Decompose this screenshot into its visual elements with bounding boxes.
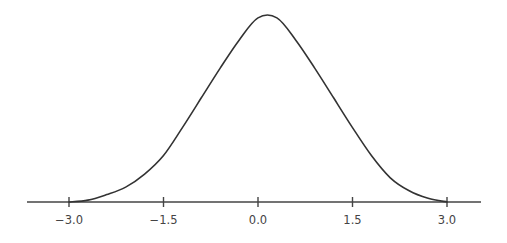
- x-axis-tick-labels: −3.0−1.50.01.53.0: [55, 213, 456, 227]
- x-axis-tick-label: 3.0: [438, 213, 456, 227]
- normal-distribution-curve: [69, 15, 447, 202]
- x-axis-tick-label: 0.0: [249, 213, 267, 227]
- x-axis-tick-label: 1.5: [343, 213, 361, 227]
- x-axis-tick-label: −3.0: [55, 213, 83, 227]
- x-axis-tick-label: −1.5: [150, 213, 178, 227]
- bell-curve-chart: −3.0−1.50.01.53.0: [0, 0, 507, 243]
